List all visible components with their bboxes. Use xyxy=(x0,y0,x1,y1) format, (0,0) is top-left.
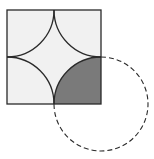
geometry-diagram xyxy=(0,0,154,159)
